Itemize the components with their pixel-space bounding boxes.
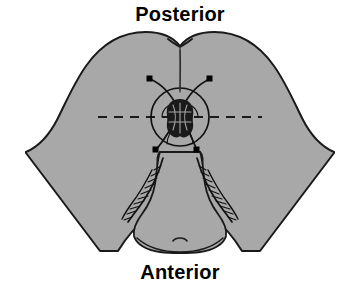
marker-anterior-left — [153, 147, 159, 153]
anatomy-illustration — [0, 0, 360, 291]
marker-posterior-left — [147, 76, 153, 82]
marker-anterior-right — [194, 147, 200, 153]
label-anterior: Anterior — [0, 262, 360, 282]
perineal-diagram-figure: Posterior Anterior — [0, 0, 360, 291]
marker-posterior-right — [207, 76, 213, 82]
label-posterior: Posterior — [0, 4, 360, 24]
